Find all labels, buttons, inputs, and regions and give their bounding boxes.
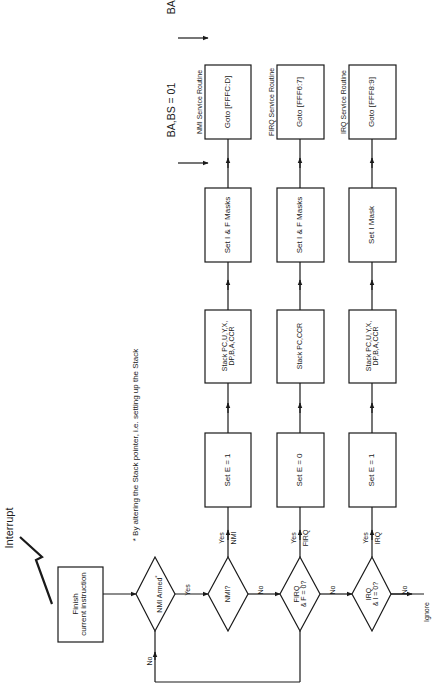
irq-decision-line1: IRQ xyxy=(365,582,372,606)
irq-routine-title: IRQ Service Routine xyxy=(340,70,347,134)
nmi-decision-label: NMI? xyxy=(224,586,231,603)
nmi-routine-title: NMI Service Routine xyxy=(196,70,203,134)
irq-yes-sub: IRQ xyxy=(374,532,381,544)
nmi-goto-text: Goto [FFFC:D] xyxy=(224,76,232,128)
nmi-armed-no: No xyxy=(146,657,153,666)
nmi-stack-line1: Stack PC,U,Y,X, xyxy=(221,321,228,371)
finish-box-text: Finish current instruction xyxy=(72,572,89,636)
firq-decision-line2: & F = 0? xyxy=(300,581,307,608)
finish-line2: current instruction xyxy=(80,572,88,636)
firq-masks-text: Set I & F Masks xyxy=(296,197,304,253)
footnote-text: * By altering the Stack pointer, i.e. se… xyxy=(132,349,140,542)
irq-decision-label: IRQ & I = 0? xyxy=(365,582,380,606)
firq-goto-text: Goto [FFF6:7] xyxy=(296,77,304,127)
irq-stack-line2: DP,B,A,CCR xyxy=(372,321,379,371)
ba-bs-00-label: BA,BS = 00 xyxy=(166,0,177,14)
nmi-yes-sub: NMI xyxy=(230,532,237,545)
irq-stack-text: Stack PC,U,Y,X, DP,B,A,CCR xyxy=(365,321,380,371)
nmi-armed-label: NMI Armed* xyxy=(154,575,164,612)
irq-no-label: No xyxy=(401,586,408,595)
ignore-label: Ignore xyxy=(423,602,430,622)
ba-bs-01-label: BA,BS = 01 xyxy=(166,83,177,138)
firq-set-e-text: Set E = 0 xyxy=(296,453,304,486)
firq-decision-label: FIRQ & F = 0? xyxy=(293,581,308,608)
nmi-set-e-text: Set E = 1 xyxy=(224,453,232,486)
irq-masks-text: Set I Mask xyxy=(368,206,376,244)
irq-goto-text: Goto [FFF8:9] xyxy=(368,77,376,127)
irq-decision-line2: & I = 0? xyxy=(372,582,379,606)
firq-yes-label: Yes xyxy=(290,532,297,543)
interrupt-label: Interrupt xyxy=(4,508,16,549)
firq-decision-line1: FIRQ xyxy=(293,581,300,608)
nmi-armed-text: NMI Armed xyxy=(156,578,163,613)
firq-stack-line1: Stack PC,CCR xyxy=(296,323,303,369)
nmi-no-label: No xyxy=(257,586,264,595)
nmi-masks-text: Set I & F Masks xyxy=(224,197,232,253)
irq-yes-label: Yes xyxy=(362,532,369,543)
nmi-armed-yes: Yes xyxy=(184,584,191,595)
firq-stack-text: Stack PC,CCR xyxy=(296,323,303,369)
lightning-bolt-icon xyxy=(20,537,52,604)
irq-stack-line1: Stack PC,U,Y,X, xyxy=(365,321,372,371)
nmi-stack-text: Stack PC,U,Y,X, DP,B,A,CCR xyxy=(221,321,236,371)
irq-set-e-text: Set E = 1 xyxy=(368,453,376,486)
firq-yes-sub: FIRQ xyxy=(302,530,309,547)
firq-no-label: No xyxy=(329,586,336,595)
firq-routine-title: FIRQ Service Routine xyxy=(268,68,275,136)
nmi-armed-asterisk: * xyxy=(154,575,160,577)
nmi-stack-line2: DP,B,A,CCR xyxy=(228,321,235,371)
nmi-yes-label: Yes xyxy=(218,532,225,543)
